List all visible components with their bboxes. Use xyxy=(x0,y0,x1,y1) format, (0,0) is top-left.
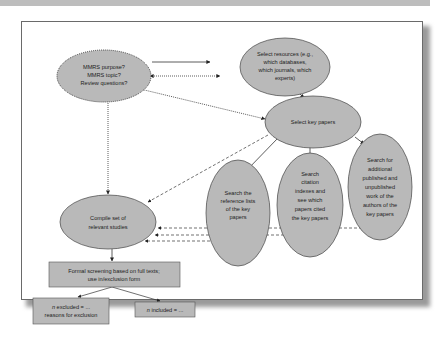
svg-text:experts): experts) xyxy=(275,75,295,81)
svg-text:Compile set of: Compile set of xyxy=(90,215,126,221)
node-line: authors of the xyxy=(363,202,397,208)
node-search-additional-work: Search for additional published and unpu… xyxy=(348,134,412,240)
node-line: which databases, xyxy=(262,59,307,65)
svg-text:n excluded = ...: n excluded = ... xyxy=(52,304,91,310)
node-line: Select key papers xyxy=(291,119,336,125)
svg-text:which journals, which: which journals, which xyxy=(258,67,312,73)
svg-text:which databases,: which databases, xyxy=(262,59,307,65)
node-line: additional xyxy=(368,166,392,172)
node-line: Compile set of xyxy=(90,215,126,221)
node-line: MMRS purpose? xyxy=(83,64,125,70)
node-line: relevant studies xyxy=(88,224,127,230)
svg-text:citation: citation xyxy=(301,179,319,185)
svg-text:key papers: key papers xyxy=(366,211,394,217)
node-n-included: n included = ... xyxy=(135,302,195,317)
node-line: papers xyxy=(229,214,246,220)
svg-text:work of the: work of the xyxy=(365,193,393,199)
svg-text:Search the: Search the xyxy=(224,190,251,196)
node-mmrs-questions: MMRS purpose? MMRS topic? Review questio… xyxy=(57,50,151,102)
node-line: Review questions? xyxy=(81,80,128,86)
node-line: papers cited xyxy=(295,206,325,212)
edge-screening-to-excluded xyxy=(78,287,112,297)
node-line: Search xyxy=(301,171,319,177)
node-formal-screening: Formal screening based on full texts; us… xyxy=(49,262,180,287)
node-line: use in/exclusion form xyxy=(88,276,141,282)
node-line: key papers xyxy=(366,211,394,217)
node-line: the key papers xyxy=(292,215,329,221)
svg-text:Select key papers: Select key papers xyxy=(291,119,336,125)
edge-keypapers-mmrs-dotted xyxy=(136,88,265,119)
svg-text:of the key: of the key xyxy=(226,206,250,212)
svg-text:Formal screening based on full: Formal screening based on full texts; xyxy=(68,268,160,274)
svg-text:Select resources (e.g.,: Select resources (e.g., xyxy=(257,51,313,57)
svg-text:papers: papers xyxy=(229,214,246,220)
node-line: excluded = ... xyxy=(55,304,90,310)
node-line: which journals, which xyxy=(258,67,312,73)
node-compile-relevant-studies: Compile set of relevant studies xyxy=(60,195,156,249)
svg-text:indexes and: indexes and xyxy=(295,188,325,194)
svg-text:Search for: Search for xyxy=(367,157,393,163)
svg-text:unpublished: unpublished xyxy=(365,184,395,190)
svg-text:Review questions?: Review questions? xyxy=(81,80,128,86)
node-line: see which xyxy=(298,197,323,203)
flow-diagram: MMRS purpose? MMRS topic? Review questio… xyxy=(0,0,445,354)
node-search-reference-lists: Search the reference lists of the key pa… xyxy=(206,160,270,266)
node-search-citation-indexes: Search citation indexes and see which pa… xyxy=(277,153,343,257)
node-n-excluded: n excluded = ... reasons for exclusion xyxy=(33,298,109,324)
svg-text:Search: Search xyxy=(301,171,319,177)
node-line: Formal screening based on full texts; xyxy=(68,268,160,274)
edge-screening-to-included xyxy=(112,287,160,301)
node-line: work of the xyxy=(365,193,393,199)
node-line: MMRS topic? xyxy=(87,72,121,78)
node-line: unpublished xyxy=(365,184,395,190)
node-line: Select resources (e.g., xyxy=(257,51,313,57)
svg-text:relevant studies: relevant studies xyxy=(88,224,127,230)
svg-text:the key papers: the key papers xyxy=(292,215,329,221)
node-line: citation xyxy=(301,179,319,185)
svg-text:MMRS purpose?: MMRS purpose? xyxy=(83,64,125,70)
svg-text:published and: published and xyxy=(363,175,398,181)
node-line: Search for xyxy=(367,157,393,163)
svg-text:see which: see which xyxy=(298,197,323,203)
svg-text:reasons for exclusion: reasons for exclusion xyxy=(45,312,98,318)
node-select-resources: Select resources (e.g., which databases,… xyxy=(240,38,330,96)
node-line: Search the xyxy=(224,190,251,196)
node-line: reference lists xyxy=(221,198,256,204)
node-line: published and xyxy=(363,175,398,181)
node-select-key-papers: Select key papers xyxy=(265,96,361,148)
node-line: experts) xyxy=(275,75,295,81)
svg-text:n included = ...: n included = ... xyxy=(147,307,184,313)
svg-text:papers cited: papers cited xyxy=(295,206,325,212)
svg-text:use in/exclusion form: use in/exclusion form xyxy=(88,276,141,282)
svg-text:MMRS topic?: MMRS topic? xyxy=(87,72,121,78)
node-line: reasons for exclusion xyxy=(45,312,98,318)
node-line: indexes and xyxy=(295,188,325,194)
svg-text:additional: additional xyxy=(368,166,392,172)
node-line: of the key xyxy=(226,206,250,212)
node-line: included = ... xyxy=(150,307,184,313)
svg-text:authors of the: authors of the xyxy=(363,202,397,208)
svg-text:reference lists: reference lists xyxy=(221,198,256,204)
